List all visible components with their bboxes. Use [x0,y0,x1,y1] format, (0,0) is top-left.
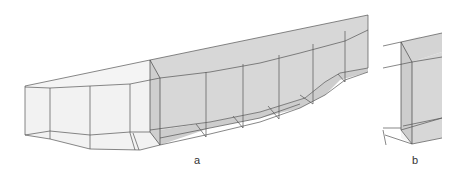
panel-a-drawing [25,15,368,150]
panel-label-b: b [412,154,418,166]
panel-label-a: a [194,154,200,166]
girder-diagram [0,0,466,176]
panel-b-drawing [383,33,442,145]
